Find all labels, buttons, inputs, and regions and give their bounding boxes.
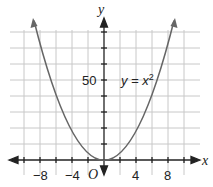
x-axis-label: x [201,153,209,168]
y-axis-label: y [96,2,105,17]
y-axis-up-arrow-icon [101,18,108,27]
x-axis-left-arrow-icon [9,157,18,164]
parabola-chart: y x O 50 −8 −4 4 8 y = x2 [0,0,213,187]
grid [10,30,200,175]
equation-label: y = x2 [120,72,154,88]
origin-label: O [88,167,98,182]
x-axis-right-arrow-icon [191,157,200,164]
x-tick-4: 4 [132,168,139,183]
y-axis-down-arrow-icon [101,166,108,175]
equation-text: y = x [120,73,149,88]
equation-exponent: 2 [149,72,154,82]
x-tick-minus-4: −4 [65,168,80,183]
x-tick-8: 8 [164,168,171,183]
curve-right-arrow-icon [171,18,178,28]
y-axis [101,18,108,175]
curve-left-arrow-icon [31,18,38,28]
y-tick-50: 50 [82,73,96,88]
x-tick-minus-8: −8 [33,168,48,183]
